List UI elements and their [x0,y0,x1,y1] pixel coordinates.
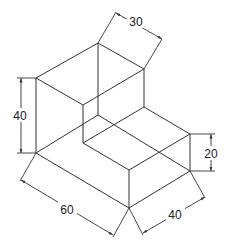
isometric-drawing: 30 40 20 60 40 [0,0,228,249]
dimension-label-60: 60 [60,203,74,217]
dimension-30: 30 [98,11,162,69]
dimension-20: 20 [190,134,220,171]
dimension-40-height: 40 [11,78,36,153]
dimension-60: 60 [20,153,129,237]
object-edges [36,43,190,208]
dimension-label-30: 30 [129,15,143,29]
dimension-label-20: 20 [204,147,218,161]
dimension-40-width: 40 [129,171,205,235]
dimension-label-40-width: 40 [168,208,182,222]
dimension-label-40-height: 40 [13,109,27,123]
